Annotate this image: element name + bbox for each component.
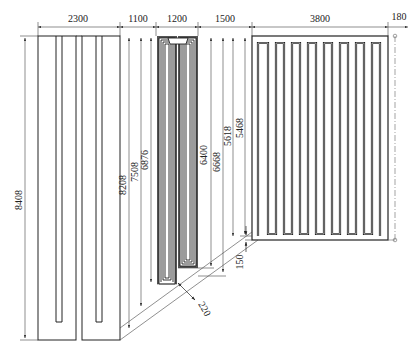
dim-width-180: 180 <box>392 11 407 22</box>
dim-height-5618: 5618 <box>222 126 233 146</box>
dim-height-8408: 8408 <box>13 190 24 210</box>
dim-width-1500: 1500 <box>215 13 235 24</box>
middle-panel <box>157 36 198 284</box>
left-panel <box>38 36 120 340</box>
dim-width-1100: 1100 <box>128 13 148 24</box>
dim-height-6668: 6668 <box>211 152 222 172</box>
dim-line-220 <box>178 283 195 300</box>
mid-left-dims <box>129 38 151 328</box>
dim-offset-150: 150 <box>234 255 245 270</box>
dim-height-5468: 5468 <box>234 118 245 138</box>
dim-width-3800: 3800 <box>310 13 330 24</box>
reference-line-180 <box>388 34 397 242</box>
right-panel <box>252 36 388 240</box>
technical-drawing: 2300 1100 1200 1500 3800 180 8408 8208 7… <box>0 0 415 351</box>
dim-height-6876: 6876 <box>139 150 150 170</box>
dim-line-8408 <box>20 36 38 340</box>
dim-offset-220: 220 <box>196 300 213 318</box>
dim-width-1200: 1200 <box>167 13 187 24</box>
top-dimension-chain <box>38 22 408 36</box>
dim-width-2300: 2300 <box>68 13 88 24</box>
dim-height-8208: 8208 <box>117 175 128 195</box>
dim-height-6400: 6400 <box>198 145 209 165</box>
